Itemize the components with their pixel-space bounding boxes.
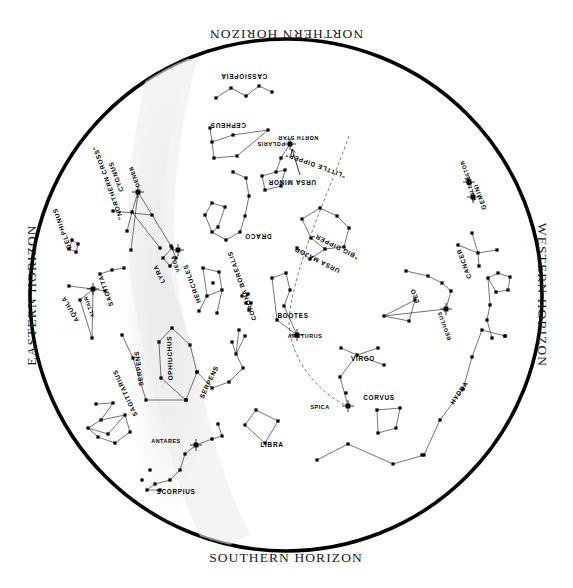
star-dot — [508, 275, 511, 278]
star-dot — [220, 288, 223, 291]
star-dot — [205, 294, 208, 297]
star-dot — [229, 86, 232, 89]
star-dot — [94, 402, 97, 405]
star-dot — [266, 128, 269, 131]
star-dot — [376, 431, 379, 434]
star-dot — [86, 426, 89, 429]
star-dot — [318, 206, 321, 209]
star-dot — [231, 133, 234, 136]
star-chart-canvas: CASSIOPEIACEPHEUSURSA MINOR"LITTLE DIPPE… — [0, 0, 573, 588]
star-name-label: ARCTURUS — [288, 333, 323, 339]
star-dot — [244, 94, 247, 97]
star-dot — [260, 174, 263, 177]
star-dot — [184, 398, 187, 401]
constellation-label: BOOTES — [277, 312, 308, 319]
star-dot — [161, 256, 164, 259]
star-dot — [158, 246, 161, 249]
star-dot — [220, 434, 223, 437]
star-dot — [470, 231, 473, 234]
star-dot — [244, 176, 247, 179]
star-dot — [496, 271, 499, 274]
star-dot — [440, 281, 443, 284]
star-dot — [495, 248, 498, 251]
star-dot — [70, 238, 73, 241]
star-dot — [197, 309, 200, 312]
star-dot — [283, 168, 286, 171]
star-dot — [235, 154, 238, 157]
star-dot — [243, 334, 246, 337]
star-dot — [274, 170, 277, 173]
star-dot — [76, 242, 79, 245]
star-dot — [111, 401, 114, 404]
star-dot — [148, 468, 151, 471]
star-dot — [188, 343, 191, 346]
named-star-north-star: NORTH STAR — [278, 135, 318, 141]
star-dot — [382, 363, 385, 366]
star-dot — [123, 413, 126, 416]
constellation-label: DRACO — [245, 233, 272, 240]
star-dot — [203, 213, 206, 216]
star-dot — [494, 290, 497, 293]
star-name-label: ANTARES — [151, 438, 181, 444]
star-dot — [288, 288, 291, 291]
star-dot — [74, 250, 77, 253]
star-dot — [183, 452, 186, 455]
northern-horizon-label: NORTHERN HORIZON — [209, 27, 363, 42]
star-dot — [128, 430, 131, 433]
star-dot — [449, 289, 452, 292]
star-dot — [506, 288, 509, 291]
star-dot — [98, 272, 101, 275]
western-horizon-label: WESTERN HORIZON — [535, 223, 550, 367]
star-dot — [210, 201, 213, 204]
constellation-label: CORVUS — [363, 394, 394, 401]
star-dot — [284, 271, 287, 274]
star-dot — [90, 336, 93, 339]
star-dot — [106, 432, 109, 435]
star-dot — [110, 268, 113, 271]
star-dot — [270, 276, 273, 279]
star-dot — [282, 304, 285, 307]
star-dot — [398, 406, 401, 409]
star-dot — [211, 281, 214, 284]
constellation-label: VIRGO — [351, 355, 375, 362]
star-dot — [178, 468, 181, 471]
star-dot — [486, 276, 489, 279]
star-dot — [339, 346, 342, 349]
star-dot — [404, 269, 407, 272]
star-dot — [120, 333, 123, 336]
star-dot — [480, 328, 483, 331]
star-dot — [476, 251, 479, 254]
star-dot — [125, 229, 128, 232]
star-dot — [347, 226, 350, 229]
star-dot — [122, 266, 125, 269]
star-dot — [426, 274, 429, 277]
star-dot — [438, 418, 441, 421]
star-dot — [238, 230, 241, 233]
star-dot — [382, 314, 385, 317]
star-dot — [243, 214, 246, 217]
star-dot — [153, 482, 156, 485]
star-dot — [150, 213, 153, 216]
star-dot — [212, 156, 215, 159]
star-dot — [67, 284, 70, 287]
star-dot — [210, 230, 213, 233]
star-dot — [420, 453, 423, 456]
star-dot — [231, 170, 234, 173]
star-dot — [335, 214, 338, 217]
star-dot — [241, 366, 244, 369]
star-dot — [254, 408, 257, 411]
star-dot — [247, 194, 250, 197]
star-dot — [78, 298, 81, 301]
star-dot — [243, 423, 246, 426]
constellation-label: URSA MINOR — [268, 179, 316, 186]
star-dot — [216, 422, 219, 425]
star-dot — [170, 326, 173, 329]
constellation-label: CASSIOPEIA — [221, 73, 267, 80]
star-dot — [338, 375, 341, 378]
star-dot — [140, 478, 143, 481]
constellation-label: LIBRA — [260, 441, 283, 448]
star-dot — [323, 247, 326, 250]
star-dot — [210, 140, 213, 143]
star-dot — [503, 334, 506, 337]
star-dot — [279, 156, 282, 159]
